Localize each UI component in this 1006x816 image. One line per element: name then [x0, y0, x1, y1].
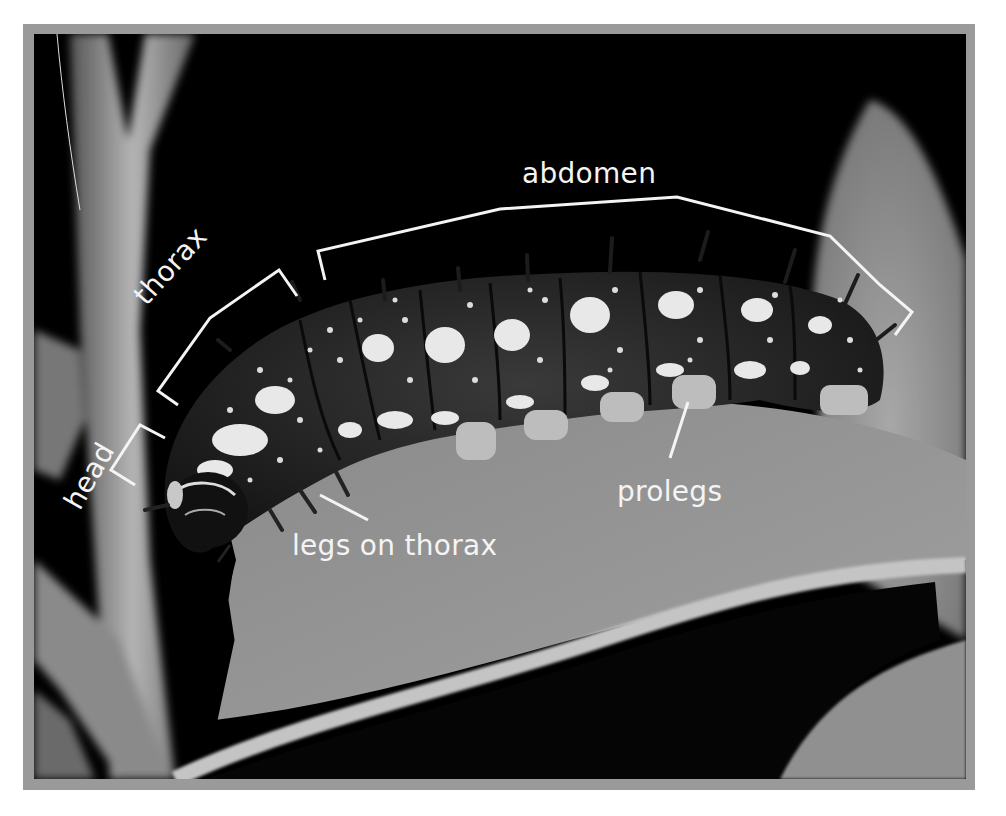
label-abdomen: abdomen — [522, 160, 656, 188]
photo-scene — [34, 34, 966, 779]
caterpillar-photo — [34, 34, 966, 779]
label-legs-on-thorax: legs on thorax — [292, 532, 497, 560]
label-prolegs: prolegs — [617, 478, 722, 506]
